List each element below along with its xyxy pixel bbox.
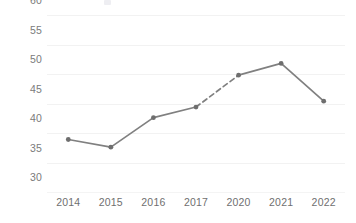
data-point-marker	[151, 115, 156, 120]
series-line-agreeing	[47, 15, 345, 192]
y-axis-tick-label: 45	[16, 84, 42, 94]
x-axis-tick-label: 2020	[217, 196, 261, 208]
data-point-marker	[194, 105, 199, 110]
plot-area	[47, 15, 345, 192]
series-segment	[239, 63, 282, 75]
y-axis-tick-label: 30	[16, 172, 42, 182]
y-axis-tick-label: 55	[16, 25, 42, 35]
data-point-marker	[108, 145, 113, 150]
y-axis-tick-label: 40	[16, 113, 42, 123]
series-segment	[281, 63, 324, 101]
data-point-marker	[321, 99, 326, 104]
x-axis-tick-label: 2021	[259, 196, 303, 208]
data-point-marker	[236, 73, 241, 78]
y-axis-tick-labels: 30354045505560	[14, 0, 42, 223]
x-axis-tick-label: 2014	[46, 196, 90, 208]
series-segment	[111, 118, 154, 148]
x-axis-tick-label: 2022	[302, 196, 346, 208]
series-segment-dashed	[196, 75, 239, 107]
y-axis-tick-label: 60	[16, 0, 42, 5]
series-segment	[153, 107, 196, 118]
x-axis-tick-label: 2015	[89, 196, 133, 208]
data-point-marker	[279, 61, 284, 66]
y-axis-tick-label: 50	[16, 54, 42, 64]
y-axis-tick-label: 35	[16, 143, 42, 153]
line-chart: % Agreeing 30354045505560 20142015201620…	[0, 0, 356, 223]
data-point-marker	[66, 137, 71, 142]
series-segment	[68, 139, 111, 147]
x-axis-tick-label: 2017	[174, 196, 218, 208]
cropped-title-artifact	[104, 0, 111, 5]
x-axis-tick-label: 2016	[131, 196, 175, 208]
axis-baseline	[47, 192, 345, 193]
